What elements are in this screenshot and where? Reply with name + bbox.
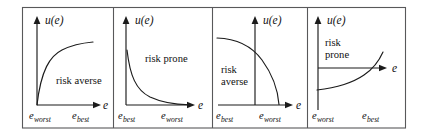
panel-1-annotation: risk averse — [56, 75, 102, 86]
panel-3-x-axis-label: e — [296, 99, 301, 111]
panel-1-x-axis-label: e — [103, 99, 108, 111]
panel-2-annotation: risk prone — [145, 53, 188, 64]
panel-2-tick-left-sub: best — [123, 115, 136, 124]
panel-1-tick-right-sub: best — [77, 115, 90, 124]
panel-3-tick-left-sub: best — [221, 115, 234, 124]
panel-2-tick-right-sub: worst — [166, 115, 184, 124]
panel-3-annotation-line-1: risk — [221, 64, 238, 75]
panel-3-tick-right-sub: worst — [264, 115, 282, 124]
panel-4-y-axis-label: u(e) — [327, 14, 346, 27]
panel-4-x-axis-label: e — [392, 62, 397, 74]
panel-2-x-axis-label: e — [198, 99, 203, 111]
panel-1-y-axis-label: u(e) — [45, 14, 64, 27]
panel-4-annotation-line-1: risk — [325, 37, 342, 48]
panel-1-tick-left-sub: worst — [34, 115, 52, 124]
panel-4-tick-left-sub: worst — [317, 115, 335, 124]
panel-3-annotation-line-2: averse — [221, 76, 248, 87]
figure-canvas: u(e) e risk averse e worst e best u(e) e — [0, 0, 422, 138]
risk-attitude-figure: u(e) e risk averse e worst e best u(e) e — [0, 0, 422, 138]
panel-4-annotation-line-2: prone — [325, 49, 349, 60]
panel-4-tick-right-sub: best — [367, 115, 380, 124]
panel-3-y-axis-label: u(e) — [263, 14, 282, 27]
panel-2-y-axis-label: u(e) — [135, 14, 154, 27]
